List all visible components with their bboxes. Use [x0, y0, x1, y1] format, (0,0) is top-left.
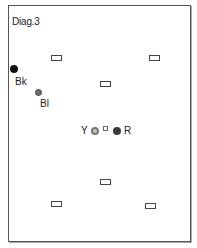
- center-spot: [103, 126, 108, 131]
- blue-ball-label: Bl: [40, 99, 49, 109]
- red-ball-label: R: [124, 126, 131, 136]
- blue-ball: [35, 89, 42, 96]
- rect-marker-top-left: [51, 55, 62, 61]
- rect-marker-bottom-right: [145, 203, 156, 209]
- rect-marker-upper-center: [100, 81, 111, 87]
- rect-marker-top-right: [149, 55, 160, 61]
- red-ball: [113, 127, 121, 135]
- black-ball: [10, 65, 18, 73]
- rect-marker-lower-center: [100, 179, 111, 185]
- diagram-title: Diag.3: [12, 16, 40, 27]
- diagram-frame: [8, 5, 191, 242]
- black-ball-label: Bk: [15, 77, 27, 87]
- yellow-ball: [91, 127, 99, 135]
- rect-marker-bottom-left: [51, 201, 62, 207]
- yellow-ball-label: Y: [81, 126, 88, 136]
